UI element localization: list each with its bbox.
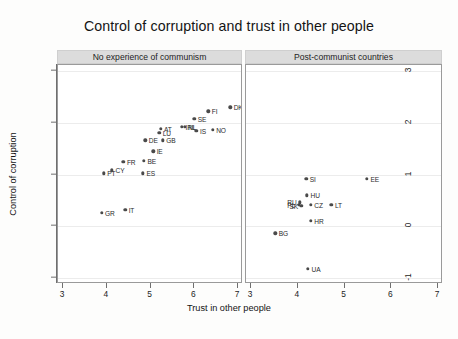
- data-point-label: IT: [129, 206, 135, 213]
- x-tick-mark: [250, 283, 251, 288]
- x-tick-mark: [297, 283, 298, 288]
- data-point: [142, 159, 145, 162]
- data-point-label: BE: [147, 157, 156, 164]
- x-tick-label: 5: [341, 289, 346, 299]
- y-tick-label: 2: [403, 116, 413, 128]
- gridline: [58, 226, 241, 227]
- y-tick-mark: [51, 70, 57, 71]
- gridline: [58, 278, 241, 279]
- data-point: [300, 204, 303, 207]
- data-point: [305, 193, 308, 196]
- x-tick-mark: [62, 283, 63, 288]
- y-tick-label: 3: [403, 64, 413, 76]
- x-tick-label: 7: [435, 289, 440, 299]
- x-tick-label: 6: [191, 289, 196, 299]
- data-point-label: FR: [127, 158, 136, 165]
- x-tick-label: 7: [235, 289, 240, 299]
- data-point-label: BG: [279, 230, 288, 237]
- data-point-label: DK: [234, 104, 242, 111]
- panel-header-left-label: No experience of communism: [93, 52, 207, 62]
- x-tick-mark: [237, 283, 238, 288]
- data-point: [207, 110, 210, 113]
- data-point-label: EE: [370, 175, 379, 182]
- x-tick-label: 6: [388, 289, 393, 299]
- x-tick-label: 5: [147, 289, 152, 299]
- data-point: [123, 208, 126, 211]
- data-point-label: IS: [200, 128, 206, 135]
- data-point-label: LT: [335, 201, 342, 208]
- data-point: [122, 160, 125, 163]
- data-point: [193, 117, 196, 120]
- x-tick-label: 4: [294, 289, 299, 299]
- data-point: [228, 106, 231, 109]
- data-point: [309, 203, 312, 206]
- x-tick-mark: [193, 283, 194, 288]
- data-point-label: GB: [166, 137, 175, 144]
- y-tick-label: -1: [403, 271, 413, 283]
- data-point: [306, 267, 309, 270]
- data-point: [274, 232, 277, 235]
- data-point: [365, 177, 368, 180]
- x-tick-mark: [390, 283, 391, 288]
- data-point-label: HR: [314, 218, 323, 225]
- y-axis-title-text: Control of corruption: [8, 132, 18, 215]
- y-tick-label: 0: [403, 219, 413, 231]
- data-point-label: ES: [147, 170, 156, 177]
- data-point: [151, 150, 154, 153]
- gridline: [58, 71, 241, 72]
- x-axis-title: Trust in other people: [0, 303, 458, 313]
- x-tick-label: 3: [60, 289, 65, 299]
- y-tick-mark: [51, 277, 57, 278]
- y-tick-label: 1: [403, 168, 413, 180]
- data-point-label: FI: [212, 108, 218, 115]
- y-axis-title: Control of corruption: [6, 64, 20, 283]
- x-tick-label: 4: [103, 289, 108, 299]
- data-point-label: CZ: [314, 201, 323, 208]
- x-tick-mark: [344, 283, 345, 288]
- page-title: Control of corruption and trust in other…: [0, 18, 458, 34]
- data-point: [144, 139, 147, 142]
- data-point-label: CY: [116, 167, 125, 174]
- data-point: [211, 128, 214, 131]
- data-point-label: LU: [163, 130, 171, 137]
- y-tick-mark: [51, 225, 57, 226]
- panel-header-right: Post-communist countries: [245, 50, 442, 64]
- panel-header-left: No experience of communism: [57, 50, 242, 64]
- x-tick-mark: [150, 283, 151, 288]
- data-point-label: RU: [287, 199, 296, 206]
- data-point-label: SI: [310, 175, 316, 182]
- data-point-label: UA: [312, 265, 321, 272]
- x-tick-mark: [437, 283, 438, 288]
- x-tick-mark: [106, 283, 107, 288]
- data-point-label: DE: [149, 137, 158, 144]
- gridline: [58, 123, 241, 124]
- data-point: [159, 127, 162, 130]
- chart-figure: Control of corruption and trust in other…: [0, 0, 458, 339]
- y-tick-mark: [51, 121, 57, 122]
- data-point-label: GR: [105, 209, 115, 216]
- data-point: [309, 219, 312, 222]
- plot-area-left: GRPTCYFRITESBEDEIEATLUGBNLIRLSEISFINODK: [57, 64, 242, 283]
- data-point: [304, 177, 307, 180]
- data-point: [161, 139, 164, 142]
- data-point-label: SE: [198, 115, 207, 122]
- data-point: [158, 131, 161, 134]
- data-point: [330, 203, 333, 206]
- data-point: [195, 129, 198, 132]
- x-tick-label: 3: [248, 289, 253, 299]
- y-tick-mark: [51, 173, 57, 174]
- data-point-label: HU: [311, 192, 320, 199]
- data-point-label: IE: [157, 148, 163, 155]
- panel-header-right-label: Post-communist countries: [294, 52, 393, 62]
- data-point: [100, 211, 103, 214]
- data-point-label: NO: [216, 126, 226, 133]
